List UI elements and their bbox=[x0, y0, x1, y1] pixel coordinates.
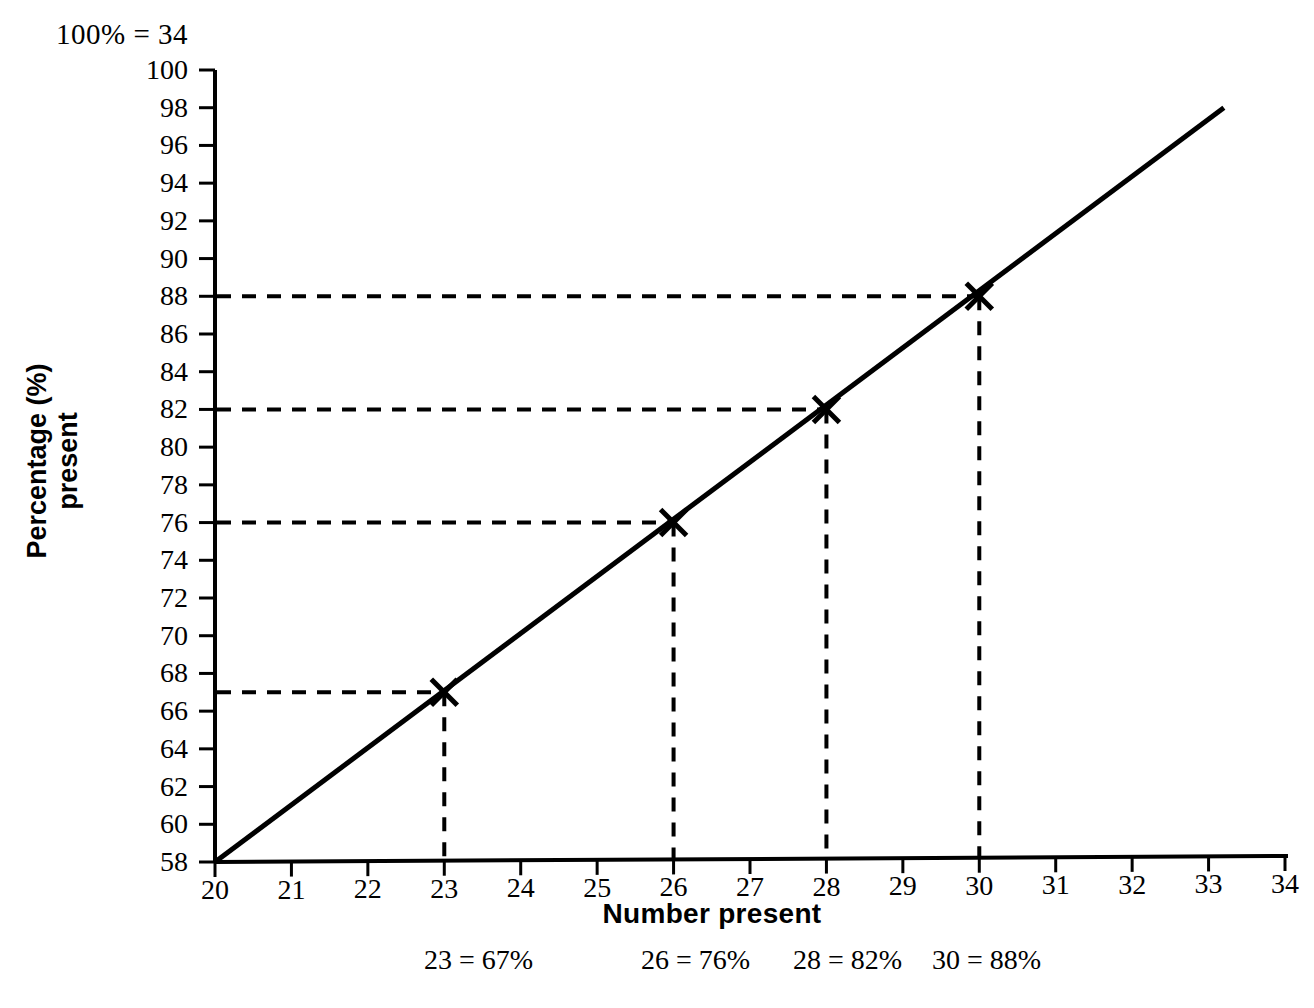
y-tick-label: 76 bbox=[118, 509, 188, 537]
point-annotation: 28 = 82% bbox=[793, 944, 902, 976]
data-series bbox=[215, 108, 1224, 862]
point-annotation: 23 = 67% bbox=[424, 944, 533, 976]
point-annotations: 23 = 67%26 = 76%28 = 82%30 = 88% bbox=[0, 944, 1314, 990]
x-tick-label: 22 bbox=[338, 875, 398, 903]
y-tick-label: 82 bbox=[118, 395, 188, 423]
series-line bbox=[215, 108, 1224, 862]
y-tick-label: 74 bbox=[118, 546, 188, 574]
x-tick-label: 28 bbox=[796, 873, 856, 901]
y-tick-label: 72 bbox=[118, 584, 188, 612]
chart-canvas bbox=[0, 0, 1314, 1008]
y-tick-label: 92 bbox=[118, 207, 188, 235]
x-tick-label: 32 bbox=[1102, 871, 1162, 899]
y-tick-label: 60 bbox=[118, 810, 188, 838]
y-tick-label: 94 bbox=[118, 169, 188, 197]
y-tick-label: 86 bbox=[118, 320, 188, 348]
x-tick-label: 20 bbox=[185, 876, 245, 904]
y-tick-label: 80 bbox=[118, 433, 188, 461]
x-tick-label: 26 bbox=[644, 873, 704, 901]
x-tick-label: 21 bbox=[261, 876, 321, 904]
x-tick-label: 31 bbox=[1026, 871, 1086, 899]
x-tick-label: 25 bbox=[567, 874, 627, 902]
x-tick-label: 34 bbox=[1255, 870, 1314, 898]
y-tick-label: 84 bbox=[118, 358, 188, 386]
y-tick-label: 68 bbox=[118, 659, 188, 687]
y-tick-label: 96 bbox=[118, 131, 188, 159]
y-tick-label: 64 bbox=[118, 735, 188, 763]
y-tick-label: 62 bbox=[118, 773, 188, 801]
x-tick-label: 27 bbox=[720, 873, 780, 901]
x-tick-label: 33 bbox=[1179, 870, 1239, 898]
axis-ticks bbox=[199, 70, 1285, 877]
point-annotation: 30 = 88% bbox=[932, 944, 1041, 976]
y-tick-label: 66 bbox=[118, 697, 188, 725]
y-tick-label: 58 bbox=[118, 848, 188, 876]
x-tick-label: 29 bbox=[873, 872, 933, 900]
y-tick-label: 100 bbox=[118, 56, 188, 84]
y-tick-label: 90 bbox=[118, 245, 188, 273]
y-tick-label: 70 bbox=[118, 622, 188, 650]
y-tick-label: 88 bbox=[118, 282, 188, 310]
y-tick-label: 78 bbox=[118, 471, 188, 499]
y-tick-label: 98 bbox=[118, 94, 188, 122]
x-tick-label: 30 bbox=[949, 872, 1009, 900]
point-annotation: 26 = 76% bbox=[641, 944, 750, 976]
x-tick-label: 24 bbox=[491, 874, 551, 902]
x-tick-label: 23 bbox=[414, 875, 474, 903]
